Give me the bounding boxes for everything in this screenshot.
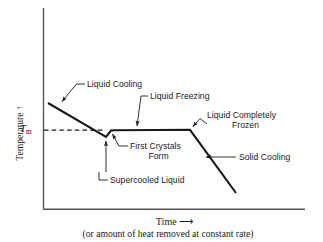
- leader-first-crystals-form: [113, 134, 129, 146]
- x-axis-title-text: Time: [156, 216, 177, 227]
- x-axis-arrow: ⟶: [179, 216, 192, 227]
- y-axis-title-text: Temperature: [14, 112, 25, 160]
- leader-supercooled-liquid: [99, 141, 108, 180]
- x-axis-title: Time ⟶: [43, 216, 305, 227]
- annotation-liquid-cooling: Liquid Cooling: [87, 79, 142, 90]
- leader-liquid-cooling: [62, 84, 85, 102]
- annotation-solid-cooling: Solid Cooling: [239, 152, 290, 163]
- tm-label-symbol: T: [20, 123, 26, 134]
- leader-liquid-freezing: [137, 96, 148, 126]
- annotation-supercooled-liquid: Supercooled Liquid: [110, 175, 184, 186]
- cooling-curve-figure: Temperature ↑ Tm Time ⟶ (or amount of he…: [0, 0, 323, 242]
- annotation-liquid-completely-frozen-line1: Liquid Completely: [207, 110, 276, 121]
- annotation-first-crystals-line1: First Crystals: [130, 141, 181, 152]
- annotation-liquid-freezing: Liquid Freezing: [150, 91, 210, 102]
- annotation-first-crystals-line2: Form: [130, 151, 187, 162]
- y-axis-arrow: ↑: [14, 106, 25, 110]
- tm-label-subscript: m: [26, 128, 32, 136]
- x-axis-subtitle: (or amount of heat removed at constant r…: [23, 228, 313, 239]
- annotation-liquid-completely-frozen-line2: Frozen: [207, 120, 284, 131]
- tm-axis-label: Tm: [20, 123, 32, 136]
- leader-liquid-completely-frozen: [193, 119, 207, 127]
